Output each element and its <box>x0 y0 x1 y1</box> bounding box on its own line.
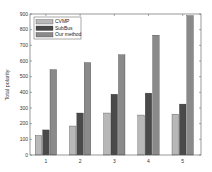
y-tick-label: 500 <box>20 73 29 79</box>
x-tick-label: 1 <box>45 158 48 164</box>
legend-label: SubBus <box>55 25 73 31</box>
x-tick-label: 3 <box>113 158 116 164</box>
legend-label: CVMP <box>55 18 70 24</box>
y-tick-label: 900 <box>20 11 29 17</box>
legend-swatch <box>36 33 53 38</box>
bar-our-method <box>187 16 194 155</box>
y-tick-label: 0 <box>25 152 28 158</box>
legend-label: Our method <box>55 31 82 37</box>
y-tick-label: 600 <box>20 58 29 64</box>
bar-our-method <box>50 70 57 155</box>
x-tick-label: 4 <box>147 158 150 164</box>
y-tick-label: 400 <box>20 89 29 95</box>
y-tick-label: 100 <box>20 136 29 142</box>
bar-our-method <box>84 63 91 155</box>
y-tick-label: 700 <box>20 42 29 48</box>
bar-subbus <box>111 94 118 155</box>
y-tick-label: 800 <box>20 26 29 32</box>
y-axis-label: Total polarity <box>4 69 10 100</box>
bar-cvmp <box>69 126 76 155</box>
bar-subbus <box>43 130 50 155</box>
bar-our-method <box>118 55 125 155</box>
legend-swatch <box>36 26 53 31</box>
legend: CVMPSubBusOur method <box>34 17 82 39</box>
bar-chart: 0100200300400500600700800900 12345 Total… <box>0 0 212 172</box>
y-tick-label: 200 <box>20 120 29 126</box>
bar-our-method <box>153 35 160 155</box>
bar-cvmp <box>138 115 145 155</box>
bar-cvmp <box>35 135 42 155</box>
x-tick-label: 2 <box>79 158 82 164</box>
bar-subbus <box>77 113 84 155</box>
x-tick-label: 5 <box>181 158 184 164</box>
bar-cvmp <box>104 113 111 155</box>
y-tick-label: 300 <box>20 105 29 111</box>
legend-swatch <box>36 20 53 25</box>
bar-subbus <box>179 104 186 155</box>
bar-subbus <box>145 93 152 155</box>
bar-cvmp <box>172 114 179 155</box>
